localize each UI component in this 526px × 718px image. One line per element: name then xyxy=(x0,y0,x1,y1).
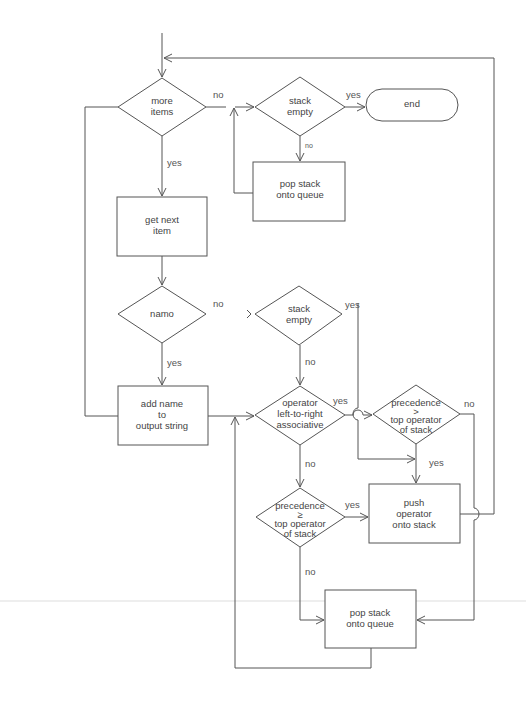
edge-label: no xyxy=(305,566,316,577)
node-text: more xyxy=(151,95,173,106)
node-text: item xyxy=(153,225,171,236)
edge-return-to-top xyxy=(164,58,494,514)
edge-prec-ge-no xyxy=(300,547,324,620)
decision-precedence-greater-equal: precedence ≥ top operator of stack xyxy=(256,488,345,547)
edge-label: yes xyxy=(167,357,182,368)
decision-precedence-greater: precedence > top operator of stack xyxy=(373,385,460,444)
edge-label: yes xyxy=(429,457,444,468)
decision-more-items: more items xyxy=(118,78,206,136)
decision-operator-left-to-right: operator left-to-right associative xyxy=(255,386,345,445)
node-text: get next xyxy=(145,214,179,225)
node-text: namo xyxy=(150,308,174,319)
node-text: stack xyxy=(289,95,311,106)
node-text: add name xyxy=(141,398,183,409)
node-text: associative xyxy=(277,419,324,430)
node-text: empty xyxy=(287,106,313,117)
node-text: pop stack xyxy=(350,607,391,618)
edge-pop-top-return xyxy=(234,108,253,193)
node-text: output string xyxy=(136,420,188,431)
edge-add-name-loop xyxy=(85,107,118,416)
process-pop-stack-top: pop stack onto queue xyxy=(253,162,345,221)
edge-label: no xyxy=(305,458,316,469)
node-text: operator xyxy=(396,508,431,519)
edge-label: no xyxy=(213,89,224,100)
edge-label: yes xyxy=(345,299,360,310)
node-text: onto queue xyxy=(346,618,394,629)
node-text: empty xyxy=(286,314,312,325)
node-text: stack xyxy=(288,303,310,314)
edge-label: no xyxy=(213,298,224,309)
edge-label: yes xyxy=(333,395,348,406)
node-text: pop stack xyxy=(280,178,321,189)
edge-label: yes xyxy=(346,89,361,100)
node-text: items xyxy=(151,106,174,117)
node-text: of stack xyxy=(400,424,433,435)
decision-stack-empty-mid: stack empty xyxy=(255,286,342,345)
node-text: of stack xyxy=(284,528,317,539)
process-push-operator: push operator onto stack xyxy=(369,484,460,543)
edge-op-ltr-yes xyxy=(345,410,372,415)
process-get-next-item: get next item xyxy=(117,197,207,256)
edge-label: no xyxy=(305,356,316,367)
node-text: onto queue xyxy=(276,189,324,200)
node-text: left-to-right xyxy=(277,408,323,419)
terminal-end: end xyxy=(366,89,458,121)
process-add-name: add name to output string xyxy=(118,386,208,445)
edge-name-no-arrow xyxy=(247,310,251,318)
edge-label: no xyxy=(464,398,475,409)
edge-label: yes xyxy=(167,157,182,168)
node-text: operator xyxy=(282,397,317,408)
node-text: end xyxy=(404,98,420,109)
edge-label: no xyxy=(305,142,313,149)
decision-name: namo xyxy=(118,286,206,343)
node-text: push xyxy=(404,497,425,508)
process-pop-stack-bottom: pop stack onto queue xyxy=(325,590,416,648)
edge-label: yes xyxy=(345,499,360,510)
flowchart-canvas: more items stack empty end pop stack ont… xyxy=(0,0,526,718)
decision-stack-empty-top: stack empty xyxy=(255,77,345,136)
node-text: to xyxy=(158,409,166,420)
node-text: onto stack xyxy=(392,519,436,530)
